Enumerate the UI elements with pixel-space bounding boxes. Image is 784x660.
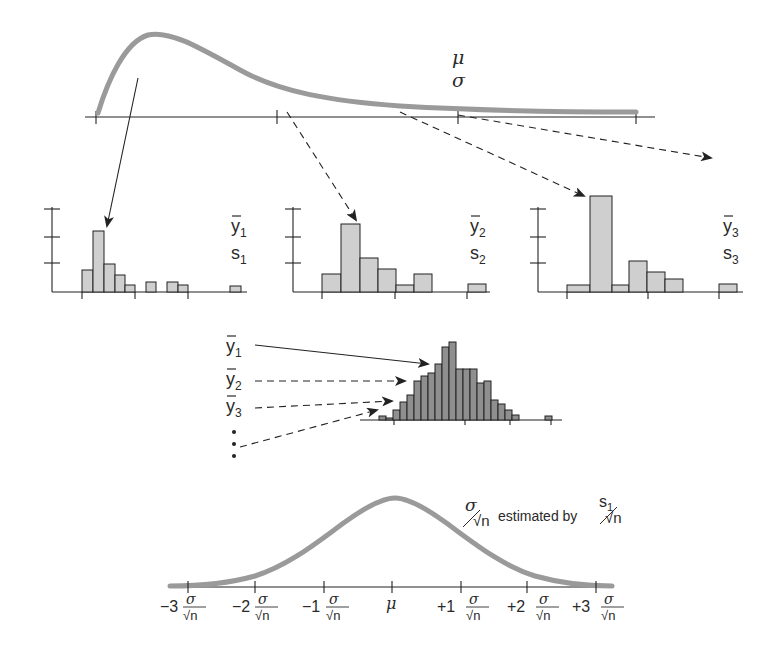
svg-text:−3: −3 <box>160 598 178 615</box>
sample-arrow-more <box>458 115 711 158</box>
ybar-2-label: y2 <box>226 369 242 393</box>
svg-text:σ: σ <box>539 591 549 607</box>
sample-2-mean-label: y2 <box>470 216 486 240</box>
sample-histogram-2: y2 s2 <box>285 207 490 299</box>
mean-arrow-more <box>240 410 377 447</box>
svg-text:√n: √n <box>326 608 340 623</box>
sampling-distribution-diagram: μ σ y1 s1 <box>0 0 784 660</box>
sample-1-sd-label: s1 <box>231 243 247 267</box>
svg-text:√n: √n <box>473 512 490 529</box>
svg-text:+3: +3 <box>572 598 590 615</box>
svg-text:σ: σ <box>604 591 614 607</box>
sample-2-sd-label: s2 <box>470 243 486 267</box>
svg-text:σ: σ <box>258 591 268 607</box>
sample-histogram-1: y1 s1 <box>44 207 247 299</box>
sample-arrow-2 <box>287 112 356 220</box>
sample-arrow-3 <box>400 112 584 196</box>
standard-error-annotation: σ √n estimated by s1 √n <box>463 493 622 529</box>
tick-label-plus-1: +1 σ √n <box>437 591 489 623</box>
ellipsis-dot <box>232 454 236 458</box>
svg-text:−1: −1 <box>302 598 320 615</box>
tick-label-mu: μ <box>386 594 396 613</box>
sample-3-mean-label: y3 <box>723 216 739 240</box>
svg-text:−2: −2 <box>232 598 250 615</box>
svg-text:σ: σ <box>469 591 479 607</box>
mean-arrow-3 <box>255 401 392 408</box>
ellipsis-dot <box>232 442 236 446</box>
sample-arrow-1 <box>107 78 138 226</box>
svg-text:√n: √n <box>536 608 550 623</box>
svg-text:estimated by: estimated by <box>498 508 577 524</box>
tick-label-minus-1: −1 σ √n <box>302 591 349 623</box>
ellipsis-dot <box>232 430 236 434</box>
svg-text:σ: σ <box>186 591 196 607</box>
svg-text:√n: √n <box>605 509 622 526</box>
sample-1-mean-label: y1 <box>231 216 247 240</box>
tick-label-minus-2: −2 σ √n <box>232 591 278 623</box>
svg-text:+2: +2 <box>507 598 525 615</box>
svg-text:μ: μ <box>386 594 396 613</box>
tick-label-minus-3: −3 σ √n <box>160 591 206 623</box>
population-mean-label: μ <box>452 46 464 68</box>
ybar-3-label: y3 <box>226 396 242 420</box>
svg-text:+1: +1 <box>437 598 455 615</box>
sample-3-sd-label: s3 <box>723 243 739 267</box>
skewed-population-curve <box>98 34 636 113</box>
population-distribution: μ σ <box>85 34 655 124</box>
tick-label-plus-2: +2 σ √n <box>507 591 559 623</box>
population-sd-label: σ <box>452 69 466 91</box>
svg-text:√n: √n <box>601 608 615 623</box>
svg-text:√n: √n <box>466 608 480 623</box>
svg-text:σ: σ <box>329 591 339 607</box>
svg-text:√n: √n <box>183 608 197 623</box>
normal-distribution: σ √n estimated by s1 √n −3 σ √n −2 σ √n … <box>160 493 624 623</box>
svg-text:√n: √n <box>255 608 269 623</box>
sampling-distribution-histogram: y1 y2 y3 <box>226 336 562 458</box>
ybar-1-label: y1 <box>226 336 242 360</box>
tick-label-plus-3: +3 σ √n <box>572 591 624 623</box>
mean-arrow-1 <box>255 345 428 364</box>
sample-histogram-3: y3 s3 <box>530 196 743 299</box>
